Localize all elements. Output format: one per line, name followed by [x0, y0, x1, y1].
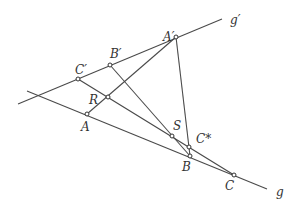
- point-s: [170, 134, 174, 138]
- line-c-prime-c: [78, 79, 234, 175]
- label-g-prime: g′: [230, 13, 241, 27]
- label-r: R: [88, 93, 98, 107]
- label-c-prime: C′: [75, 63, 87, 77]
- label-c-star: C*: [196, 132, 211, 146]
- point-b-prime: [108, 63, 112, 67]
- line-b-prime-b: [110, 65, 190, 156]
- label-b-prime: B′: [109, 47, 122, 61]
- point-c: [232, 173, 236, 177]
- point-c-star: [187, 145, 191, 149]
- line-a-a-prime: [87, 37, 176, 114]
- point-c-prime: [76, 77, 80, 81]
- label-b: B: [181, 160, 191, 174]
- label-a-prime: A′: [162, 30, 175, 44]
- label-g: g: [276, 185, 284, 199]
- geometry-diagram: g g′ A B C A′ B′ C′ R S C*: [0, 0, 299, 210]
- line-g: [27, 91, 267, 189]
- point-a-prime: [174, 35, 178, 39]
- point-a: [85, 112, 89, 116]
- label-a: A: [80, 120, 90, 134]
- point-b: [188, 154, 192, 158]
- line-a-prime-b: [176, 37, 190, 156]
- point-r: [106, 95, 110, 99]
- label-c: C: [225, 179, 234, 193]
- label-s: S: [173, 119, 181, 133]
- line-g-prime: [18, 19, 222, 104]
